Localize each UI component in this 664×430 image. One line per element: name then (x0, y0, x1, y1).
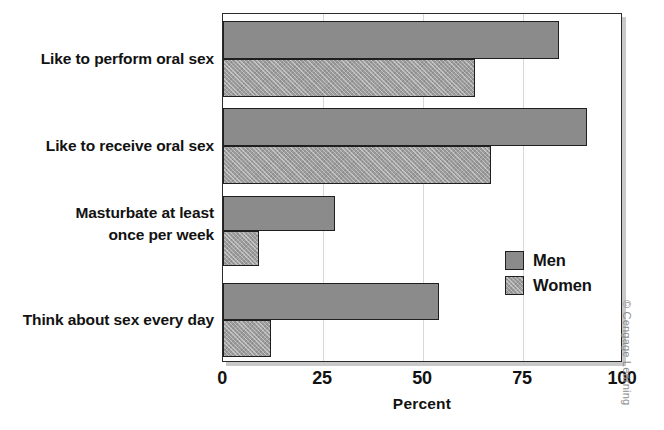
gridline-75 (523, 14, 524, 361)
copyright-credit: © Cengage Learning (621, 300, 633, 405)
bar-women-think-about-sex (223, 320, 271, 357)
legend-item-women: Women (505, 273, 592, 298)
category-label-think-about-sex: Think about sex every day (0, 310, 214, 329)
xtick-label-75: 75 (512, 368, 531, 389)
legend-swatch-men-icon (505, 251, 524, 270)
bar-men-receive-oral-sex (223, 108, 587, 146)
legend-label-men: Men (533, 251, 566, 270)
bar-women-perform-oral-sex (223, 59, 475, 97)
bar-men-perform-oral-sex (223, 21, 559, 59)
legend-swatch-women-icon (505, 276, 524, 295)
bar-women-masturbate (223, 231, 259, 266)
category-label-receive-oral-sex: Like to receive oral sex (0, 136, 214, 155)
xtick-label-50: 50 (412, 368, 431, 389)
xtick-label-25: 25 (312, 368, 331, 389)
legend-item-men: Men (505, 248, 592, 273)
x-axis-title: Percent (222, 395, 622, 413)
bar-chart-figure: Like to perform oral sex Like to receive… (0, 0, 664, 430)
plot-inner (223, 14, 621, 361)
bar-men-think-about-sex (223, 283, 439, 320)
category-label-masturbate-line1: Masturbate at least (0, 203, 214, 222)
xtick-label-0: 0 (217, 368, 227, 389)
category-axis-labels: Like to perform oral sex Like to receive… (0, 0, 214, 362)
legend-label-women: Women (533, 276, 592, 295)
legend: Men Women (505, 248, 592, 298)
plot-area (222, 13, 622, 362)
bar-men-masturbate (223, 196, 335, 231)
bar-women-receive-oral-sex (223, 146, 491, 184)
category-label-perform-oral-sex: Like to perform oral sex (0, 49, 214, 68)
category-label-masturbate-line2: once per week (0, 225, 214, 244)
